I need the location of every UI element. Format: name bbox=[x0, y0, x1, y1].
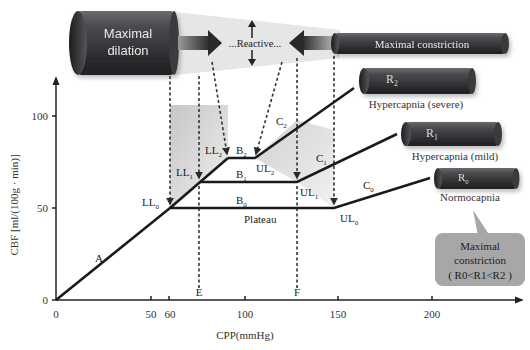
caption-hypercapnia-severe: Hypercapnia (severe) bbox=[369, 98, 464, 111]
vessel-maximal-dilation: Maximal dilation bbox=[69, 11, 179, 75]
callout-line-1: Maximal bbox=[460, 240, 500, 252]
r2-sub: 2 bbox=[394, 79, 398, 88]
label-a: A bbox=[95, 252, 103, 264]
label-c1: C bbox=[316, 152, 323, 164]
x-tick-100: 100 bbox=[237, 308, 254, 320]
r2-label: R bbox=[386, 72, 394, 86]
x-axis-label: CPP(mmHg) bbox=[216, 329, 274, 342]
label-ul2: UL bbox=[256, 162, 271, 174]
x-tick-60: 60 bbox=[165, 308, 177, 320]
svg-text:UL0: UL0 bbox=[340, 212, 359, 227]
autoregulation-diagram: Maximal dilation ...Reactive... Maximal … bbox=[0, 0, 530, 350]
label-ul0: UL bbox=[340, 212, 355, 224]
label-c2: C bbox=[276, 115, 283, 127]
label-ll1: LL bbox=[176, 166, 190, 178]
label-plateau: Plateau bbox=[244, 213, 277, 225]
axes: 100 50 0 0 50 60 100 150 200 CPP(mmHg) C… bbox=[8, 78, 522, 342]
y-tick-100: 100 bbox=[32, 110, 49, 122]
vessel-r0: R0 bbox=[434, 168, 520, 189]
label-ll0: LL bbox=[142, 196, 156, 208]
label-f: F bbox=[294, 286, 300, 298]
vessel-dilation-label-2: dilation bbox=[107, 43, 148, 58]
callout-line-3: ( R0<R1<R2 ) bbox=[448, 269, 512, 282]
r1-sub: 1 bbox=[434, 133, 438, 142]
x-tick-200: 200 bbox=[424, 308, 441, 320]
x-tick-150: 150 bbox=[330, 308, 347, 320]
caption-hypercapnia-mild: Hypercapnia (mild) bbox=[412, 150, 499, 163]
label-ul1: UL bbox=[300, 186, 315, 198]
label-ll2: LL bbox=[205, 144, 219, 156]
reactive-label: ...Reactive... bbox=[229, 38, 281, 49]
vessel-constriction-label: Maximal constriction bbox=[375, 38, 470, 50]
callout-line-2: constriction bbox=[454, 254, 506, 266]
y-tick-0: 0 bbox=[43, 294, 49, 306]
callout-maximal-constriction: Maximal constriction ( R0<R1<R2 ) bbox=[435, 210, 525, 286]
svg-text:LL0: LL0 bbox=[142, 196, 159, 211]
vessel-r2: R2 bbox=[359, 68, 476, 94]
label-c0: C bbox=[363, 179, 370, 191]
vessel-r1: R1 bbox=[401, 122, 502, 146]
x-tick-50: 50 bbox=[146, 308, 158, 320]
svg-text:C0: C0 bbox=[363, 179, 374, 194]
caption-normocapnia: Normocapnia bbox=[440, 191, 500, 203]
label-b1: B bbox=[236, 168, 243, 180]
label-b0: B bbox=[236, 194, 243, 206]
svg-text:C2: C2 bbox=[276, 115, 287, 130]
vessel-maximal-constriction: Maximal constriction bbox=[331, 33, 509, 54]
x-tick-0: 0 bbox=[53, 308, 59, 320]
vessel-dilation-label-1: Maximal bbox=[104, 26, 153, 41]
r1-label: R bbox=[426, 126, 434, 140]
y-axis-label: CBF [ml/(100g · min)] bbox=[8, 154, 21, 255]
label-b2: B bbox=[236, 144, 243, 156]
y-tick-50: 50 bbox=[37, 202, 49, 214]
r0-sub: 0 bbox=[465, 178, 469, 186]
label-e: E bbox=[196, 286, 203, 298]
